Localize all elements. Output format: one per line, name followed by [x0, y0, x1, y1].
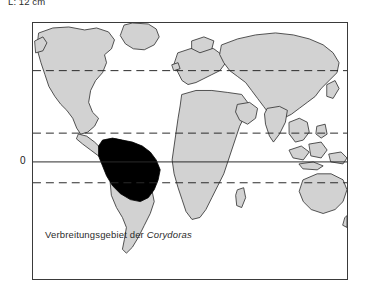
legend-caption: Verbreitungsgebiet der Corydoras [45, 229, 192, 241]
british-isles [172, 63, 180, 71]
world-map-frame: Verbreitungsgebiet der Corydoras [32, 22, 348, 280]
legend-caption-prefix: Verbreitungsgebiet der [45, 229, 147, 240]
legend-caption-species: Corydoras [147, 229, 192, 240]
size-caption: L: 12 cm [8, 0, 45, 7]
equator-label: 0 [20, 155, 26, 167]
